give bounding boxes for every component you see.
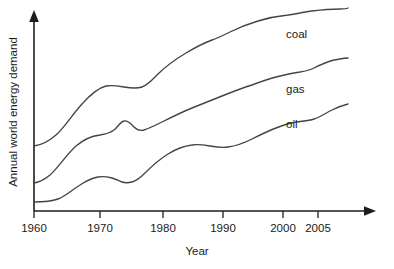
- x-tick-label-1990: 1990: [210, 222, 236, 234]
- x-axis-arrow-icon: [364, 206, 376, 216]
- series-line-oil: [34, 104, 348, 202]
- x-axis-tick-labels: 1960 1970 1980 1990 2000 2005: [21, 222, 331, 234]
- series-line-gas: [34, 58, 348, 183]
- x-tick-label-2005: 2005: [305, 222, 331, 234]
- y-axis-arrow-icon: [29, 10, 39, 22]
- y-axis-title: Annual world energy demand: [7, 37, 19, 187]
- series-label-coal: coal: [286, 28, 307, 40]
- series-label-gas: gas: [286, 83, 305, 95]
- chart-container: 1960 1970 1980 1990 2000 2005 Year Annua…: [0, 0, 394, 269]
- line-chart: 1960 1970 1980 1990 2000 2005 Year Annua…: [0, 0, 394, 269]
- x-tick-label-1980: 1980: [150, 222, 176, 234]
- x-axis-title: Year: [185, 245, 208, 257]
- series-labels: coal gas oil: [286, 28, 307, 130]
- x-tick-label-2000: 2000: [270, 222, 296, 234]
- series-label-oil: oil: [286, 118, 298, 130]
- x-axis-ticks: [34, 211, 318, 218]
- x-tick-label-1970: 1970: [87, 222, 113, 234]
- x-tick-label-1960: 1960: [21, 222, 47, 234]
